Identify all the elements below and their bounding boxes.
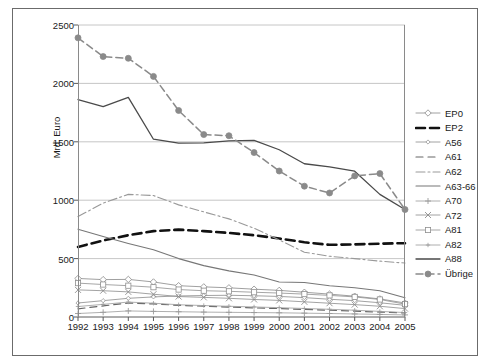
legend-swatch	[415, 107, 441, 119]
x-tick-label: 2000	[269, 321, 290, 332]
legend-item-a88[interactable]: A88	[415, 252, 485, 267]
series-a88	[78, 97, 405, 209]
legend-label: EP2	[445, 123, 463, 133]
legend-swatch	[415, 180, 441, 192]
legend-label: Übrige	[445, 269, 473, 279]
legend-label: A56	[445, 138, 462, 148]
series-lines	[78, 25, 405, 317]
legend-item-a70[interactable]: A70	[415, 194, 485, 209]
y-axis-ticks: 05001000150020002500	[36, 25, 74, 317]
legend-label: A72	[445, 211, 462, 221]
legend-swatch	[415, 268, 441, 280]
legend-label: A61	[445, 152, 462, 162]
legend-swatch	[415, 166, 441, 178]
legend-swatch	[415, 151, 441, 163]
legend-swatch	[415, 209, 441, 221]
legend-swatch	[415, 239, 441, 251]
series-a62	[78, 194, 405, 263]
series-a72	[75, 287, 408, 312]
x-tick-label: 1995	[143, 321, 164, 332]
x-tick-label: 1992	[67, 321, 88, 332]
legend-label: A70	[445, 196, 462, 206]
y-tick-label: 1500	[36, 136, 74, 147]
x-tick-label: 2001	[294, 321, 315, 332]
legend-item-ep0[interactable]: EP0	[415, 106, 485, 121]
legend-item--brige[interactable]: Übrige	[415, 267, 485, 282]
x-tick-label: 2003	[344, 321, 365, 332]
legend-label: A63-66	[445, 182, 476, 192]
series-a70	[75, 308, 408, 318]
legend-item-a81[interactable]: A81	[415, 223, 485, 238]
x-tick-label: 1998	[218, 321, 239, 332]
chart-figure: Mrd. Euro 05001000150020002500 199219931…	[0, 0, 490, 364]
legend-item-a63-66[interactable]: A63-66	[415, 179, 485, 194]
x-tick-label: 1997	[193, 321, 214, 332]
legend-label: A81	[445, 225, 462, 235]
series--brige	[75, 35, 408, 213]
x-tick-label: 2002	[319, 321, 340, 332]
plot-area	[78, 25, 405, 317]
legend-label: A82	[445, 240, 462, 250]
x-tick-label: 2004	[369, 321, 390, 332]
legend-item-a82[interactable]: A82	[415, 237, 485, 252]
legend-swatch	[415, 136, 441, 148]
legend-label: EP0	[445, 109, 463, 119]
x-tick-label: 1993	[93, 321, 114, 332]
legend-item-a61[interactable]: A61	[415, 150, 485, 165]
legend-swatch	[415, 224, 441, 236]
series-a81	[75, 281, 407, 307]
legend-swatch	[415, 195, 441, 207]
series-ep0	[75, 275, 408, 306]
x-tick-label: 1994	[118, 321, 139, 332]
legend-item-a72[interactable]: A72	[415, 208, 485, 223]
y-tick-label: 1000	[36, 195, 74, 206]
x-tick-label: 1996	[168, 321, 189, 332]
legend-swatch	[415, 253, 441, 265]
legend-label: A88	[445, 254, 462, 264]
y-tick-label: 500	[36, 253, 74, 264]
legend-label: A62	[445, 167, 462, 177]
legend-swatch	[415, 122, 441, 134]
legend-item-a56[interactable]: A56	[415, 135, 485, 150]
x-tick-label: 1999	[243, 321, 264, 332]
x-axis-ticks: 1992199319941995199619971998199920002001…	[78, 321, 405, 337]
x-tick-label: 2005	[394, 321, 415, 332]
legend-item-a62[interactable]: A62	[415, 164, 485, 179]
y-tick-label: 2500	[36, 20, 74, 31]
chart-legend: EP0EP2A56A61A62A63-66A70A72A81A82A88Übri…	[415, 106, 485, 281]
y-tick-label: 2000	[36, 78, 74, 89]
series-ep2	[78, 230, 405, 247]
legend-item-ep2[interactable]: EP2	[415, 121, 485, 136]
